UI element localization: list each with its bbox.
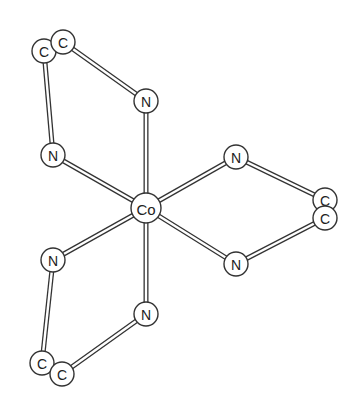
atom-n3: N bbox=[224, 145, 248, 169]
atom-label: N bbox=[231, 257, 241, 273]
atom-label: C bbox=[58, 35, 68, 51]
bond-fill bbox=[53, 208, 146, 260]
bond-fill bbox=[42, 260, 53, 363]
bond-fill bbox=[62, 314, 146, 374]
atom-n2: N bbox=[41, 143, 65, 167]
bond-fill bbox=[236, 218, 325, 264]
atom-c2: C bbox=[51, 30, 75, 54]
atom-label: C bbox=[37, 356, 47, 372]
atom-label: C bbox=[39, 44, 49, 60]
atom-n6: N bbox=[134, 302, 158, 326]
atom-label: N bbox=[141, 94, 151, 110]
bond-fill bbox=[44, 51, 53, 155]
atom-label: Co bbox=[136, 201, 155, 218]
atom-layer: CoNNCCNNCCNNCC bbox=[30, 30, 337, 386]
coordination-complex-diagram: CoNNCCNNCCNNCC bbox=[0, 0, 363, 416]
atom-label: N bbox=[231, 150, 241, 166]
atom-label: N bbox=[48, 253, 58, 269]
atom-label: C bbox=[57, 367, 67, 383]
atom-label: N bbox=[141, 307, 151, 323]
bond-fill bbox=[53, 155, 146, 208]
atom-n5: N bbox=[41, 248, 65, 272]
bond-layer bbox=[42, 42, 325, 374]
atom-label: C bbox=[320, 211, 330, 227]
atom-c4: C bbox=[313, 206, 337, 230]
atom-n1: N bbox=[134, 89, 158, 113]
atom-co: Co bbox=[131, 193, 161, 223]
bond-fill bbox=[236, 157, 325, 200]
bond-fill bbox=[146, 208, 236, 264]
atom-label: N bbox=[48, 148, 58, 164]
atom-n4: N bbox=[224, 252, 248, 276]
bond-fill bbox=[63, 42, 146, 101]
atom-c6: C bbox=[50, 362, 74, 386]
